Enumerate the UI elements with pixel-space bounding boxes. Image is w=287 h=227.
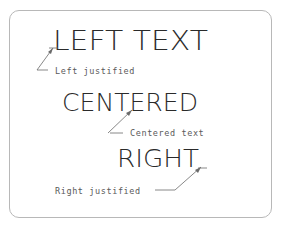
right-text-sample: RIGHT	[117, 144, 199, 173]
center-annotation: Centered text	[130, 128, 204, 138]
right-example: RIGHT Right justified	[55, 144, 207, 196]
left-example: LEFT TEXT Left justified	[37, 25, 208, 76]
left-text-sample: LEFT TEXT	[53, 25, 208, 56]
left-annotation: Left justified	[55, 66, 135, 76]
center-example: CENTERED Centered text	[62, 88, 204, 138]
right-annotation: Right justified	[55, 186, 141, 196]
justification-diagram: LEFT TEXT Left justified CENTERED Center…	[0, 0, 287, 227]
